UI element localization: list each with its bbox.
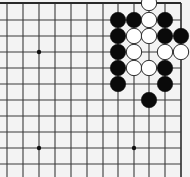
- black-stone[interactable]: [141, 92, 156, 107]
- black-stone[interactable]: [110, 12, 125, 27]
- black-stone[interactable]: [110, 28, 125, 43]
- black-stone[interactable]: [110, 76, 125, 91]
- black-stone[interactable]: [110, 60, 125, 75]
- star-point: [37, 146, 41, 150]
- black-stone[interactable]: [157, 28, 172, 43]
- white-stone[interactable]: [126, 60, 141, 75]
- black-stone[interactable]: [157, 60, 172, 75]
- white-stone[interactable]: [141, 12, 156, 27]
- white-stone[interactable]: [141, 0, 156, 11]
- grid-lines: [0, 3, 181, 177]
- black-stone[interactable]: [126, 12, 141, 27]
- white-stone[interactable]: [157, 44, 172, 59]
- black-stone[interactable]: [157, 12, 172, 27]
- star-point: [132, 146, 136, 150]
- white-stone[interactable]: [141, 60, 156, 75]
- white-stone[interactable]: [126, 28, 141, 43]
- go-board-grid[interactable]: [0, 0, 190, 177]
- white-stone[interactable]: [141, 28, 156, 43]
- white-stone[interactable]: [126, 44, 141, 59]
- black-stone[interactable]: [173, 28, 188, 43]
- black-stone[interactable]: [110, 44, 125, 59]
- star-point: [37, 50, 41, 54]
- white-stone[interactable]: [173, 44, 188, 59]
- black-stone[interactable]: [157, 76, 172, 91]
- go-board[interactable]: [0, 0, 190, 177]
